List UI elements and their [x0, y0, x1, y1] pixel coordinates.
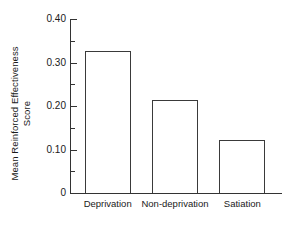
y-tick-mark [71, 106, 77, 107]
bar-chart-figure: Mean Reinforced Effectiveness Score 00.1… [0, 0, 291, 227]
y-tick-mark [71, 19, 77, 20]
bar [85, 51, 131, 193]
y-tick-minor [71, 171, 75, 172]
y-tick-label: 0.30 [20, 58, 66, 68]
x-category-label: Deprivation [84, 198, 132, 209]
y-tick-mark [71, 150, 77, 151]
x-category-label: Satiation [224, 198, 261, 209]
x-axis-line [70, 193, 282, 194]
y-tick-minor [71, 41, 75, 42]
y-tick-label: 0 [20, 188, 66, 198]
y-tick-label: 0.40 [20, 14, 66, 24]
y-tick-label: 0.20 [20, 101, 66, 111]
y-tick-mark [71, 63, 77, 64]
y-tick-minor [71, 128, 75, 129]
y-tick-mark [71, 193, 77, 194]
y-tick-minor [71, 84, 75, 85]
bar [219, 140, 265, 193]
bar [152, 100, 198, 193]
plot-area: 00.100.200.300.40 DeprivationNon-depriva… [70, 19, 282, 194]
x-category-label: Non-deprivation [141, 198, 208, 209]
y-tick-label: 0.10 [20, 145, 66, 155]
